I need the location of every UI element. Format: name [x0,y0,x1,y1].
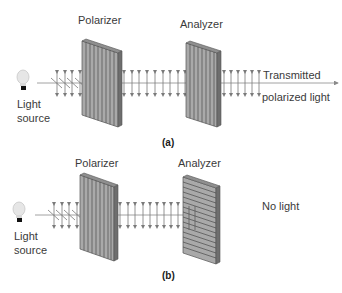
polarizer-filter-b [80,173,118,261]
polarizer-label-a: Polarizer [78,14,122,26]
analyzer-label-b: Analyzer [178,157,221,169]
polarization-diagram: Polarizer Analyzer Light source [0,0,342,293]
transmitted-wave-a [224,72,259,95]
source-label-b-line1: Light [14,230,38,242]
result-label-b: No light [262,200,299,212]
result-label-a-line2: polarized light [262,91,330,103]
result-label-a-line1: Transmitted [263,69,321,81]
source-label-b-line2: source [14,244,47,256]
light-bulb-icon [13,202,25,222]
panel-a: Polarizer Analyzer Light source [17,14,338,148]
analyzer-filter-a [186,41,221,127]
polarized-wave-b-middle [120,204,178,227]
caption-b: (b) [162,270,175,281]
polarized-wave-a-middle [124,72,192,95]
source-label-a-line2: source [17,112,50,124]
panel-b: Polarizer Analyzer Light source [13,157,299,281]
source-label-a-line1: Light [17,98,41,110]
polarizer-filter-a [82,39,122,127]
analyzer-label-a: Analyzer [180,18,223,30]
analyzer-filter-b [183,175,220,264]
polarizer-label-b: Polarizer [75,157,119,169]
caption-a: (a) [162,137,174,148]
light-bulb-icon [17,70,29,90]
